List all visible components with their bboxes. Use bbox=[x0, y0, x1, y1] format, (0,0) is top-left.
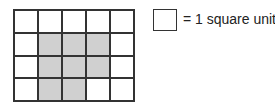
legend-unit-square bbox=[153, 9, 177, 31]
grid-cell bbox=[14, 56, 38, 79]
shaded-cell bbox=[38, 56, 62, 79]
grid-cell bbox=[38, 10, 62, 33]
grid-cell bbox=[14, 10, 38, 33]
grid-cell bbox=[110, 33, 134, 56]
shaded-cell bbox=[38, 78, 62, 101]
grid-cell bbox=[62, 10, 86, 33]
grid-cell bbox=[14, 78, 38, 101]
shaded-cell bbox=[86, 56, 110, 79]
shaded-cell bbox=[62, 56, 86, 79]
legend-label: = 1 square unit bbox=[183, 11, 275, 27]
shaded-cell bbox=[62, 78, 86, 101]
grid-cell bbox=[110, 10, 134, 33]
shaded-cell bbox=[62, 33, 86, 56]
unit-grid bbox=[13, 9, 135, 102]
grid-cell bbox=[110, 78, 134, 101]
grid-cell bbox=[86, 10, 110, 33]
grid-cell bbox=[110, 56, 134, 79]
grid-cell bbox=[14, 33, 38, 56]
shaded-cell bbox=[38, 33, 62, 56]
grid-cell bbox=[86, 78, 110, 101]
shaded-cell bbox=[86, 33, 110, 56]
